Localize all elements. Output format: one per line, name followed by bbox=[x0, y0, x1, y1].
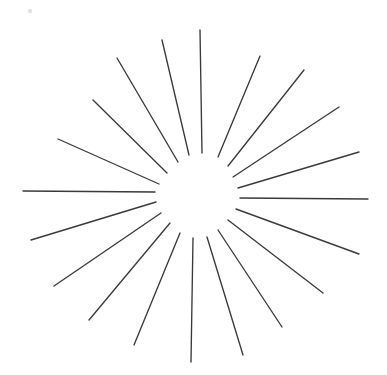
stray-speck-mark bbox=[28, 9, 32, 13]
canvas-background bbox=[0, 0, 387, 375]
drawing-canvas bbox=[0, 0, 387, 375]
starburst-figure bbox=[0, 0, 387, 375]
